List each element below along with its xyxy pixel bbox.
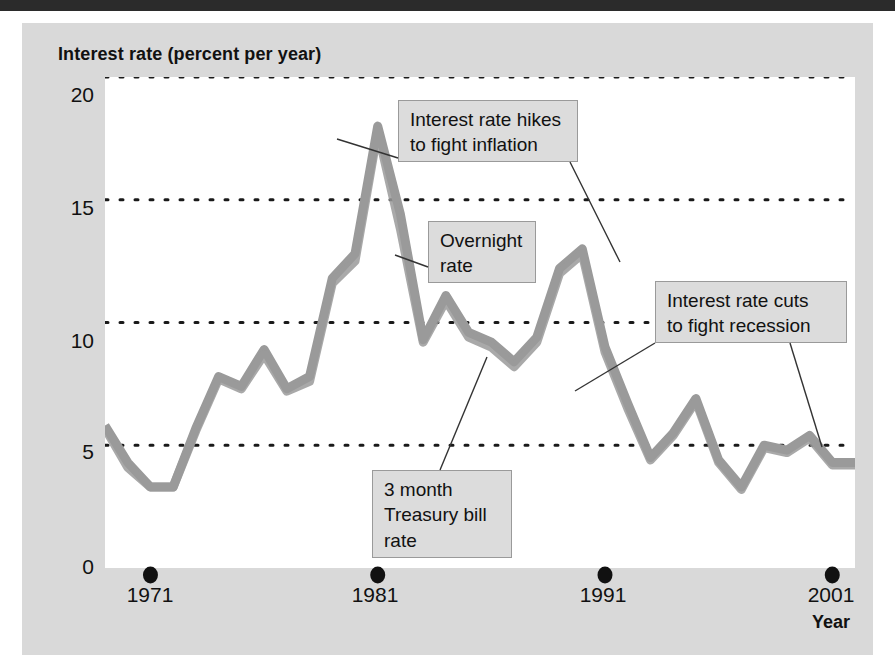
y-tick-10: 10 bbox=[48, 329, 94, 353]
annotation-interest-rate-hikes: Interest rate hikes to fight inflation bbox=[398, 100, 578, 162]
page-top-band bbox=[0, 0, 895, 11]
y-tick-20: 20 bbox=[48, 83, 94, 107]
annotation-overnight-rate: Overnight rate bbox=[428, 221, 536, 283]
x-tick-1971: 1971 bbox=[105, 583, 195, 607]
y-tick-0: 0 bbox=[48, 555, 94, 579]
x-tick-1981: 1981 bbox=[330, 583, 420, 607]
x-tick-2001: 2001 bbox=[786, 583, 876, 607]
chart-title: Interest rate (percent per year) bbox=[58, 44, 321, 65]
annotation-interest-rate-cuts: Interest rate cuts to fight recession bbox=[655, 281, 847, 343]
x-tick-1991: 1991 bbox=[558, 583, 648, 607]
x-axis-label: Year bbox=[786, 612, 876, 633]
y-tick-5: 5 bbox=[48, 440, 94, 464]
annotation-treasury-bill-rate: 3 month Treasury bill rate bbox=[372, 470, 512, 558]
y-tick-15: 15 bbox=[48, 196, 94, 220]
